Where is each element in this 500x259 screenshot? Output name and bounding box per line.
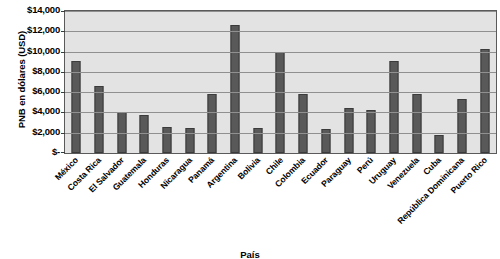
gridline <box>65 72 496 73</box>
y-tick-mark <box>61 92 65 93</box>
x-tick-label: Puerto Rico <box>482 155 500 165</box>
bar <box>389 61 398 153</box>
y-tick-mark <box>61 52 65 53</box>
bar <box>367 110 376 153</box>
y-tick-label: $6,000 <box>6 86 60 96</box>
x-axis-tick-labels: MéxicoCosta RicaEl SalvadorGuatemalaHond… <box>64 153 495 233</box>
bar-chart: PNB en dólares (USD) $-$2,000$4,000$6,00… <box>0 0 500 259</box>
gridline <box>65 112 496 113</box>
bar-slot <box>315 11 338 153</box>
y-tick-mark <box>61 133 65 134</box>
gridline <box>65 31 496 32</box>
bar-slot <box>405 11 428 153</box>
bar <box>208 94 217 153</box>
y-tick-mark <box>61 72 65 73</box>
bar <box>95 86 104 153</box>
gridline <box>65 52 496 53</box>
y-tick-label: $2,000 <box>6 127 60 137</box>
bar <box>457 99 466 153</box>
bar-slot <box>292 11 315 153</box>
y-tick-mark <box>61 11 65 12</box>
y-tick-mark <box>61 31 65 32</box>
y-tick-label: $10,000 <box>6 46 60 56</box>
bar-slot <box>451 11 474 153</box>
y-tick-label: $4,000 <box>6 106 60 116</box>
y-axis-tick-labels: $-$2,000$4,000$6,000$8,000$10,000$12,000… <box>6 4 60 156</box>
bar-slot <box>110 11 133 153</box>
bar-slot <box>133 11 156 153</box>
bar <box>72 61 81 153</box>
bar-slot <box>65 11 88 153</box>
bars-layer <box>65 11 496 153</box>
bar-slot <box>473 11 496 153</box>
bar-slot <box>201 11 224 153</box>
bar-slot <box>269 11 292 153</box>
bar-slot <box>428 11 451 153</box>
y-tick-label: $8,000 <box>6 66 60 76</box>
bar-slot <box>383 11 406 153</box>
y-tick-label: $14,000 <box>6 5 60 15</box>
gridline <box>65 11 496 12</box>
bar <box>140 115 149 153</box>
bar-slot <box>224 11 247 153</box>
bar-slot <box>88 11 111 153</box>
bar <box>435 135 444 153</box>
bar <box>185 128 194 153</box>
bar <box>480 49 489 153</box>
y-tick-label: $- <box>6 147 60 157</box>
x-axis-title: País <box>0 249 500 259</box>
bar-slot <box>337 11 360 153</box>
gridline <box>65 92 496 93</box>
plot-area <box>64 10 497 154</box>
bar-slot <box>178 11 201 153</box>
bar <box>412 94 421 153</box>
bar <box>276 52 285 153</box>
bar-slot <box>360 11 383 153</box>
bar-slot <box>246 11 269 153</box>
y-tick-label: $12,000 <box>6 25 60 35</box>
bar <box>344 108 353 153</box>
bar-slot <box>156 11 179 153</box>
bar <box>163 127 172 153</box>
gridline <box>65 133 496 134</box>
y-tick-mark <box>61 112 65 113</box>
bar <box>299 94 308 153</box>
bar <box>231 25 240 153</box>
